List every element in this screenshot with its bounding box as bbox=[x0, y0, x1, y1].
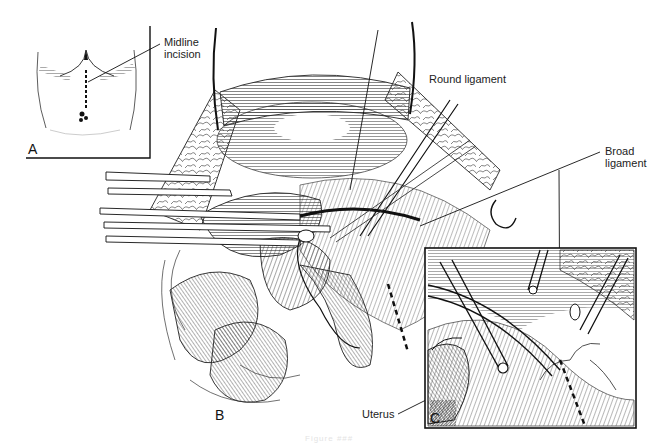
panel-a-inset bbox=[26, 26, 160, 158]
label-broad-ligament-line2: ligament bbox=[605, 157, 647, 169]
label-round-ligament: Round ligament bbox=[429, 73, 506, 85]
panel-c-inset bbox=[425, 248, 636, 428]
panel-letter-b: B bbox=[215, 407, 224, 423]
label-midline-incision: Midline incision bbox=[164, 36, 201, 60]
panel-letter-a: A bbox=[28, 141, 37, 157]
label-midline-incision-line1: Midline bbox=[164, 36, 201, 48]
label-midline-incision-line2: incision bbox=[164, 48, 201, 60]
surgical-illustration: Midline incision Round ligament Broad li… bbox=[0, 0, 668, 447]
label-broad-ligament: Broad ligament bbox=[605, 145, 647, 169]
panel-letter-c: C bbox=[430, 410, 440, 426]
label-uterus: Uterus bbox=[362, 408, 394, 420]
illustration-artwork bbox=[0, 0, 668, 447]
label-broad-ligament-line1: Broad bbox=[605, 145, 647, 157]
broad-ligament-leader-1 bbox=[420, 152, 600, 226]
figure-caption: Figure ### bbox=[305, 434, 353, 443]
